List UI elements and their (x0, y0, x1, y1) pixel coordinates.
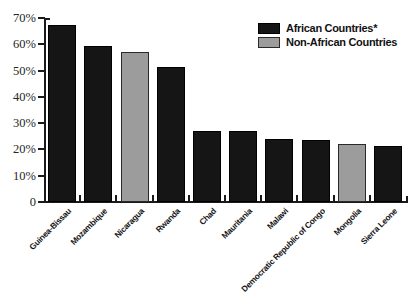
bar (302, 140, 330, 202)
legend-swatch-african (258, 23, 280, 34)
y-axis-tick-label: 60% (0, 37, 36, 52)
legend-item-non-african: Non-African Countries (258, 36, 397, 49)
y-axis-tick-label: 10% (0, 169, 36, 184)
legend-swatch-non-african (258, 37, 280, 48)
bar (48, 25, 76, 202)
y-axis-tick-label: 30% (0, 116, 36, 131)
legend: African Countries* Non-African Countries (258, 22, 397, 50)
bar (229, 131, 257, 202)
y-axis-tick-label: 20% (0, 142, 36, 157)
legend-label-african: African Countries* (286, 23, 377, 34)
y-axis-tick-label: 0 (0, 195, 36, 210)
bar (157, 67, 185, 202)
bar (84, 46, 112, 202)
bar (265, 139, 293, 202)
bar (121, 52, 149, 202)
bar (338, 144, 366, 202)
y-axis-tick-label: 40% (0, 90, 36, 105)
bar (193, 131, 221, 202)
y-axis-tick-label: 50% (0, 64, 36, 79)
bar-chart: 70%60%50%40%30%20%10%0 Guinea-BissauMoza… (0, 0, 414, 308)
bar (374, 146, 402, 203)
legend-item-african: African Countries* (258, 22, 397, 35)
legend-label-non-african: Non-African Countries (286, 37, 397, 48)
y-axis-tick-label: 70% (0, 11, 36, 26)
